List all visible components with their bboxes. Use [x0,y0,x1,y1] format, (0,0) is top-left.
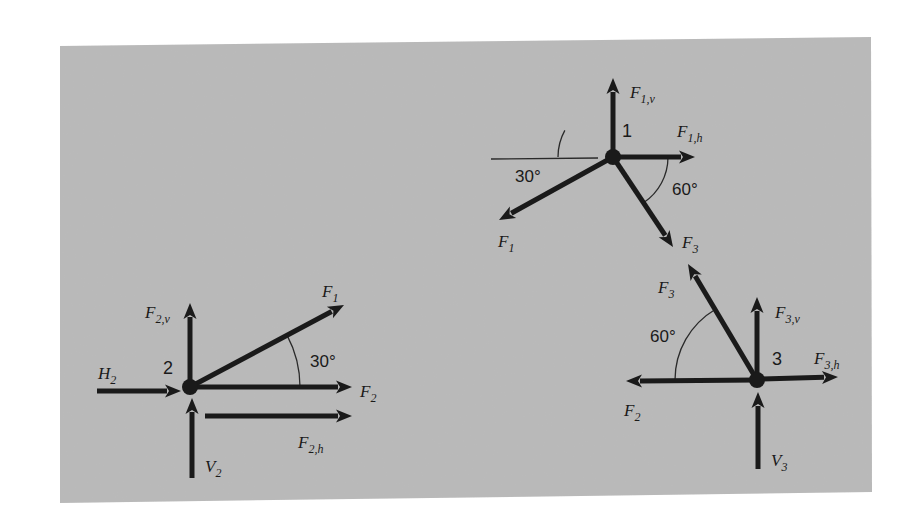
joint-node-1 [605,149,621,165]
diagram-canvas: 30°60°F1,vF1,hF1F3130°F2,vH2F1F2F2,hV226… [0,0,919,531]
joint-number-label: 2 [163,358,173,378]
joint-node-2 [182,379,198,395]
angle-label: 60° [650,327,676,346]
joint-number-label: 3 [772,349,782,369]
angle-label: 60° [672,180,698,199]
free-body-diagram: 30°60°F1,vF1,hF1F3130°F2,vH2F1F2F2,hV226… [0,0,919,531]
gray-panel [60,37,872,503]
angle-label: 30° [310,352,336,371]
angle-label: 30° [515,167,541,186]
joint-node-3 [749,372,765,388]
joint-number-label: 1 [622,121,632,141]
